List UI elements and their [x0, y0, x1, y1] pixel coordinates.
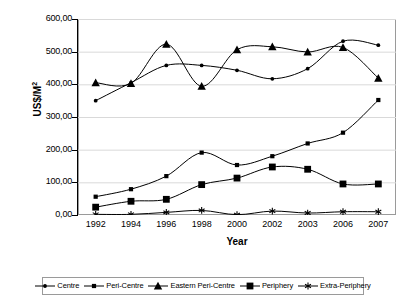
- data-point-marker: [200, 151, 204, 155]
- series-peri-centre: [94, 98, 381, 199]
- plot-area: [78, 19, 396, 215]
- data-point-marker: [163, 196, 170, 203]
- chart-figure: US$/M2 600,00500,00400,00300,00200,00100…: [0, 0, 406, 303]
- data-point-marker: [376, 98, 380, 102]
- data-point-marker: [92, 284, 96, 288]
- y-axis-tick-mark: [72, 150, 77, 151]
- y-axis-tick-label: 0,00: [26, 210, 72, 219]
- x-axis-tick-labels: 199219941996199820002002200320062007: [78, 219, 396, 233]
- legend-item-periphery[interactable]: Periphery: [240, 281, 293, 291]
- legend-label: Peri-Centre: [106, 282, 143, 290]
- legend-label: Centre: [57, 282, 79, 290]
- legend-marker-asterisk-icon: [298, 281, 318, 291]
- data-point-marker: [94, 99, 98, 103]
- data-point-marker: [233, 46, 241, 54]
- legend-label: Periphery: [262, 282, 293, 290]
- data-point-marker: [162, 40, 170, 48]
- data-point-marker: [164, 63, 168, 67]
- data-point-marker: [128, 198, 135, 205]
- y-axis-tick-label: 600,00: [26, 14, 72, 23]
- data-point-marker: [92, 204, 99, 211]
- y-axis-tick-mark: [72, 19, 77, 20]
- y-axis-tick-mark: [72, 117, 77, 118]
- y-axis-tick-mark: [72, 52, 77, 53]
- legend-item-peri-centre[interactable]: Peri-Centre: [84, 281, 143, 291]
- data-point-marker: [200, 63, 204, 67]
- legend-marker-small-square-icon: [84, 281, 104, 291]
- y-axis-tick-labels: 600,00500,00400,00300,00200,00100,000,00: [24, 0, 72, 240]
- data-point-marker: [127, 79, 135, 87]
- y-axis-tick-label: 200,00: [26, 145, 72, 154]
- legend-marker-dot-icon: [35, 281, 55, 291]
- y-axis-tick-label: 500,00: [26, 47, 72, 56]
- y-axis-tick-label: 400,00: [26, 79, 72, 88]
- data-point-marker: [305, 210, 311, 215]
- legend-marker-square-icon: [240, 281, 260, 291]
- data-point-marker: [234, 175, 241, 182]
- data-point-marker: [198, 181, 205, 188]
- data-point-marker: [91, 79, 99, 87]
- data-point-marker: [129, 187, 133, 191]
- y-axis-tick-label: 300,00: [26, 112, 72, 121]
- data-point-marker: [94, 195, 98, 199]
- y-axis-tick-mark: [72, 84, 77, 85]
- y-axis-tick-mark: [72, 215, 77, 216]
- data-point-marker: [246, 283, 253, 290]
- y-axis-tick-label: 100,00: [26, 177, 72, 186]
- y-axis-tick-mark: [72, 182, 77, 183]
- series-extra-periphery: [93, 207, 382, 215]
- data-point-marker: [164, 174, 168, 178]
- series-canvas: [78, 19, 396, 215]
- x-axis-title: Year: [78, 236, 396, 247]
- data-point-marker: [304, 166, 311, 173]
- data-point-marker: [306, 67, 310, 71]
- data-point-marker: [235, 68, 239, 72]
- legend-label: Extra-Periphery: [320, 282, 371, 290]
- series-eastern-peri-centre: [91, 40, 382, 90]
- data-point-marker: [43, 284, 47, 288]
- data-point-marker: [341, 131, 345, 135]
- chart-legend: CentrePeri-CentreEastern Peri-CentrePeri…: [42, 277, 364, 295]
- data-point-marker: [235, 163, 239, 167]
- series-periphery: [92, 164, 381, 211]
- data-point-marker: [269, 164, 276, 171]
- data-point-marker: [341, 39, 345, 43]
- data-point-marker: [270, 154, 274, 158]
- data-point-marker: [306, 141, 310, 145]
- data-point-marker: [340, 181, 347, 188]
- legend-item-centre[interactable]: Centre: [35, 281, 79, 291]
- legend-item-eastern-peri-centre[interactable]: Eastern Peri-Centre: [148, 281, 234, 291]
- x-axis-tick-label: 2007: [356, 219, 400, 229]
- data-point-marker: [375, 181, 382, 188]
- legend-item-extra-periphery[interactable]: Extra-Periphery: [298, 281, 371, 291]
- data-point-marker: [270, 77, 274, 81]
- data-point-marker: [376, 43, 380, 47]
- legend-marker-triangle-icon: [148, 281, 168, 291]
- legend-label: Eastern Peri-Centre: [170, 282, 234, 290]
